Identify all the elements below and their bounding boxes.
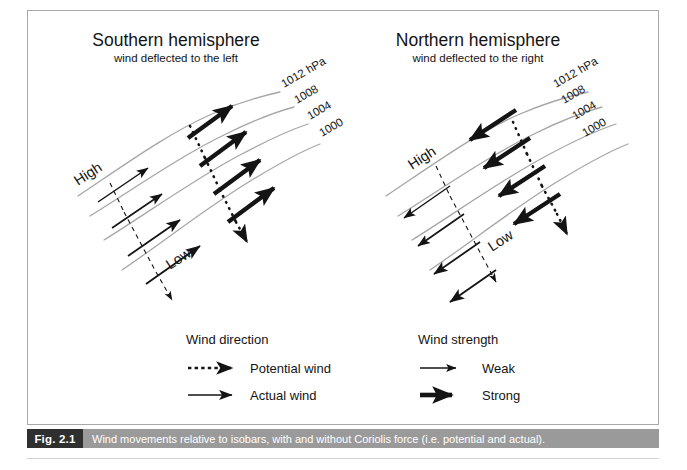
southern-isobar-labels: 1012 hPa 1008 1004 1000 bbox=[279, 54, 345, 138]
figure-caption-text: Wind movements relative to isobars, with… bbox=[83, 429, 659, 448]
actual-arrow-s-s2 bbox=[200, 132, 246, 166]
figure-caption-bar: Fig. 2.1 Wind movements relative to isob… bbox=[27, 429, 659, 448]
northern-actual-wind-strong bbox=[470, 110, 560, 224]
potential-seg-1 bbox=[110, 183, 124, 212]
potential-seg-2 bbox=[124, 212, 140, 242]
actual-arrow-n-s1 bbox=[470, 110, 516, 140]
actual-arrow-s-w2 bbox=[112, 194, 162, 228]
southern-title: Southern hemisphere bbox=[92, 30, 259, 50]
actual-arrow-s-s4 bbox=[228, 188, 274, 222]
northern-low-label: Low bbox=[485, 226, 516, 254]
legend-weak-label: Weak bbox=[482, 361, 515, 376]
southern-isobars bbox=[78, 92, 320, 270]
northern-isobar-labels: 1012 hPa 1008 1004 1000 bbox=[551, 54, 608, 138]
isobar-label-n-1012: 1012 hPa bbox=[551, 54, 600, 89]
southern-potential-wind-arrow bbox=[236, 222, 247, 242]
isobar-n-1000 bbox=[430, 144, 628, 270]
actual-arrow-n-s4 bbox=[514, 194, 560, 224]
legend-direction-heading: Wind direction bbox=[186, 332, 268, 347]
isobar-label-n-1004: 1004 bbox=[570, 98, 599, 121]
actual-arrow-n-w3 bbox=[434, 242, 480, 274]
isobar-1012 bbox=[78, 92, 280, 196]
isobar-1004 bbox=[104, 124, 308, 240]
legend-strength-heading: Wind strength bbox=[418, 332, 498, 347]
isobar-label-n-1000: 1000 bbox=[580, 116, 608, 139]
figure-root: Southern hemisphere wind deflected to th… bbox=[0, 0, 687, 470]
legend: Wind direction Potential wind Actual win… bbox=[186, 332, 520, 403]
legend-group-strength: Wind strength Weak Strong bbox=[418, 332, 520, 403]
legend-strong-label: Strong bbox=[482, 388, 520, 403]
panel-northern: Northern hemisphere wind deflected to th… bbox=[386, 30, 628, 302]
legend-actual-wind-label: Actual wind bbox=[250, 388, 316, 403]
actual-arrow-n-w2 bbox=[418, 214, 464, 246]
caption-underrule bbox=[27, 458, 659, 459]
isobar-label-1012: 1012 hPa bbox=[279, 54, 328, 89]
actual-arrow-s-w3 bbox=[128, 220, 180, 256]
northern-high-label: High bbox=[405, 143, 439, 173]
isobar-label-1008: 1008 bbox=[292, 83, 320, 106]
potential-n-seg-3 bbox=[466, 226, 482, 256]
actual-arrow-n-s3 bbox=[499, 166, 545, 196]
legend-potential-wind-label: Potential wind bbox=[250, 361, 331, 376]
southern-actual-wind-strong bbox=[188, 106, 274, 222]
northern-potential-wind-arrow bbox=[557, 214, 567, 234]
panel-southern: Southern hemisphere wind deflected to th… bbox=[71, 30, 345, 300]
legend-group-direction: Wind direction Potential wind Actual win… bbox=[186, 332, 331, 403]
actual-arrow-s-w1 bbox=[98, 168, 148, 202]
northern-potential-wind-weak bbox=[436, 166, 496, 282]
isobar-label-1000: 1000 bbox=[317, 116, 345, 139]
northern-subtitle: wind deflected to the right bbox=[411, 52, 544, 64]
southern-subtitle: wind deflected to the left bbox=[113, 52, 239, 64]
figure-number-tag: Fig. 2.1 bbox=[27, 429, 83, 448]
actual-arrow-n-w1 bbox=[404, 186, 450, 218]
isobar-n-1012 bbox=[386, 92, 588, 196]
southern-high-label: High bbox=[71, 159, 105, 189]
northern-title: Northern hemisphere bbox=[396, 30, 560, 50]
isobar-1000 bbox=[122, 144, 320, 270]
actual-arrow-n-s2 bbox=[484, 138, 530, 168]
wind-isobar-diagram: Southern hemisphere wind deflected to th… bbox=[0, 0, 687, 470]
actual-arrow-n-w4 bbox=[450, 270, 496, 302]
isobar-label-1004: 1004 bbox=[305, 98, 334, 121]
